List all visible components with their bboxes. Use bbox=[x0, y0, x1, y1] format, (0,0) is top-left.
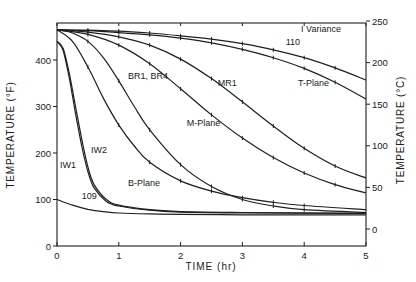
series-line-m-plane bbox=[57, 30, 366, 193]
y-axis-title-right: TEMPERATURE (°C) bbox=[395, 76, 406, 184]
cooling-curve-chart: 012345 0100200300400 050100150200250 110… bbox=[0, 0, 416, 282]
y-tick-label-right: 0 bbox=[372, 224, 377, 235]
x-tick-label: 0 bbox=[54, 250, 59, 261]
annotation-mr1: MR1 bbox=[218, 78, 237, 88]
x-tick-label: 1 bbox=[116, 250, 121, 261]
y-axis-ticks-right: 050100150200250 bbox=[366, 16, 388, 235]
annotation-br1-br4: BR1, BR4 bbox=[128, 71, 168, 81]
y-tick-label-left: 100 bbox=[35, 194, 51, 205]
annotation-109: 109 bbox=[82, 191, 97, 201]
x-tick-label: 4 bbox=[302, 250, 307, 261]
x-tick-label: 2 bbox=[178, 250, 183, 261]
y-tick-label-right: 200 bbox=[372, 57, 388, 68]
x-tick-label: 5 bbox=[363, 250, 368, 261]
annotation-iw2: IW2 bbox=[91, 145, 107, 155]
annotation-i-variance: I Variance bbox=[301, 24, 341, 34]
annotation-110: 110 bbox=[286, 37, 300, 47]
annotation-m-plane: M-Plane bbox=[187, 118, 221, 128]
annotation-iw1: IW1 bbox=[60, 160, 76, 170]
y-tick-label-right: 50 bbox=[372, 182, 383, 193]
y-tick-label-right: 150 bbox=[372, 99, 388, 110]
y-tick-label-right: 100 bbox=[372, 140, 388, 151]
x-tick-label: 3 bbox=[240, 250, 245, 261]
y-axis-title-left: TEMPERATURE (°F) bbox=[5, 81, 16, 188]
annotation-b-plane: B-Plane bbox=[128, 178, 160, 188]
y-tick-label-left: 400 bbox=[35, 55, 51, 66]
series-line-mr1 bbox=[57, 30, 366, 178]
y-tick-label-left: 300 bbox=[35, 101, 51, 112]
y-tick-label-left: 200 bbox=[35, 148, 51, 159]
x-axis-title: TIME (hr) bbox=[185, 261, 236, 272]
y-tick-label-left: 0 bbox=[46, 241, 51, 252]
x-axis-ticks: 012345 bbox=[54, 23, 368, 261]
curve-annotations: 110T-PlaneMR1M-PlaneBR1, BR4B-PlaneIW2IW… bbox=[60, 24, 341, 200]
y-tick-label-right: 250 bbox=[372, 16, 388, 27]
y-axis-ticks-left: 0100200300400 bbox=[35, 55, 57, 252]
annotation-t-plane: T-Plane bbox=[298, 78, 329, 88]
